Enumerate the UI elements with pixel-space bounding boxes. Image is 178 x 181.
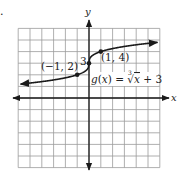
annotation-1-4: (1, 4) bbox=[101, 51, 129, 63]
y-axis-label: y bbox=[84, 6, 91, 17]
annotation-neg1-2: (−1, 2) bbox=[41, 60, 78, 72]
graph: . x y g(x) = √x + 3 3 (−1, 2) 3 (1, 4) bbox=[0, 0, 178, 181]
x-axis-label: x bbox=[171, 92, 177, 103]
radical-index: 3 bbox=[128, 69, 132, 76]
point-marker bbox=[75, 73, 80, 78]
point-marker bbox=[87, 61, 92, 66]
figure-marker: . bbox=[0, 5, 4, 18]
function-label: g(x) = √x + 3 bbox=[91, 73, 162, 85]
annotation-y-intercept: 3 bbox=[80, 55, 87, 67]
